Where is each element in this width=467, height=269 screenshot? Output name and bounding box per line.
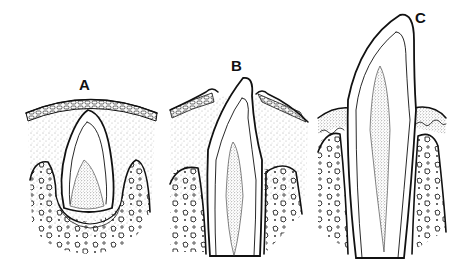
bone-right-c [414,134,446,250]
panel-label-b: B [231,58,242,73]
panel-b [170,78,308,256]
gingiva-c-right [416,108,446,134]
panel-label-c: C [415,10,426,25]
panel-label-a: A [79,77,90,92]
bone-left-c [318,133,348,250]
panel-c [318,15,446,258]
panel-a [26,100,157,255]
